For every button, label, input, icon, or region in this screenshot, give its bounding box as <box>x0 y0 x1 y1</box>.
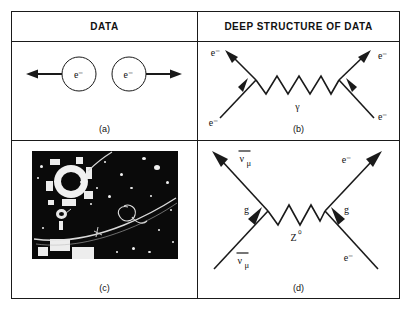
photo-speckle <box>42 227 44 229</box>
photo-speckle <box>148 251 151 253</box>
fermion-line-lower-left <box>214 207 268 269</box>
header-data: DATA <box>12 12 198 41</box>
photon-propagator <box>256 76 339 94</box>
panel-d: ν μ ν μ e⁻ e⁻ g g Z ⁰ <box>198 141 399 298</box>
photo-speckle <box>166 181 169 184</box>
panel-d-caption: (d) <box>198 283 399 293</box>
recoil-arrow-right <box>146 70 182 79</box>
panel-d-graphic <box>198 141 399 298</box>
fermion-line-lower-left <box>220 78 256 118</box>
photo-speckle <box>158 229 160 231</box>
recoil-arrow-left <box>26 70 62 79</box>
bubble-chamber-photo <box>32 151 178 259</box>
panel-a-caption: (a) <box>12 124 197 134</box>
photo-speckle <box>80 181 82 183</box>
fermion-line-upper-right <box>325 151 382 211</box>
fermion-line-upper-right <box>339 50 371 80</box>
fermion-line-lower-right <box>339 78 374 118</box>
figure-row-2: (c) <box>12 141 399 298</box>
header-row: DATA DEEP STRUCTURE OF DATA <box>12 12 399 42</box>
photo-speckle <box>170 209 172 211</box>
fermion-line-upper-left <box>212 151 268 211</box>
panel-c: (c) <box>12 141 198 298</box>
panel-b-caption: (b) <box>198 124 399 134</box>
photo-speckle <box>108 195 111 198</box>
fermion-line-upper-left <box>225 50 256 80</box>
photo-speckle <box>154 165 160 170</box>
photo-speckle <box>120 173 123 176</box>
photo-speckle <box>150 195 152 197</box>
photo-speckle <box>142 157 146 160</box>
photo-speckle <box>130 187 133 189</box>
panel-b: e⁻ e⁻ e⁻ e⁻ γ (b) <box>198 42 399 140</box>
photo-speckle <box>116 251 118 253</box>
fermion-line-lower-right <box>325 207 378 269</box>
photo-speckle <box>37 177 39 179</box>
photo-speckle <box>40 165 43 168</box>
photo-speckle <box>172 241 174 243</box>
panel-c-caption: (c) <box>12 283 197 293</box>
figure-row-1: e⁻ e⁻ (a) <box>12 42 399 141</box>
header-deep-structure: DEEP STRUCTURE OF DATA <box>198 12 399 41</box>
photo-speckle <box>104 161 106 163</box>
photo-speckle <box>132 247 135 250</box>
figure-frame: DATA DEEP STRUCTURE OF DATA <box>11 11 400 299</box>
photo-speckle <box>96 187 98 189</box>
electron-circle-right <box>112 57 146 91</box>
panel-a: e⁻ e⁻ (a) <box>12 42 198 140</box>
z-boson-propagator <box>268 205 325 225</box>
electron-circle-left <box>62 57 96 91</box>
photo-speckle <box>90 203 92 205</box>
